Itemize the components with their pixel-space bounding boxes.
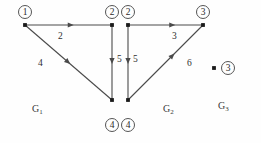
vertex-label-G1-v1: 1 xyxy=(18,5,32,19)
graph-caption-index-G1: 1 xyxy=(39,108,43,116)
edge-weight-G2-v2-v3: 3 xyxy=(172,31,177,41)
vertex-label-G3-v3: 3 xyxy=(221,61,235,75)
vertex-label-G2-v2: 2 xyxy=(121,5,135,19)
graph-figure: 124245G1234356G23G3 xyxy=(0,0,261,143)
vertex-label-G2-v4: 4 xyxy=(121,118,135,132)
vertex-dot-G2-v2[interactable] xyxy=(126,23,130,27)
vertex-dot-G3-v3[interactable] xyxy=(212,66,216,70)
arrowhead-G1-v2-v4 xyxy=(109,58,114,64)
edge-weight-G2-v4-v3: 6 xyxy=(187,58,192,68)
graph-caption-G1: G1 xyxy=(32,103,43,116)
vertex-label-G1-v4: 4 xyxy=(105,118,119,132)
vertex-dot-G2-v4[interactable] xyxy=(126,98,130,102)
graph-caption-G2: G2 xyxy=(163,103,174,116)
graph-caption-index-G2: 2 xyxy=(170,108,174,116)
vertex-dot-G1-v2[interactable] xyxy=(110,23,114,27)
graph-caption-index-G3: 3 xyxy=(225,105,229,113)
arrowhead-G1-v1-v2 xyxy=(68,22,74,27)
vertex-dot-G1-v4[interactable] xyxy=(110,98,114,102)
arrowhead-G2-v2-v4 xyxy=(125,58,130,64)
edge-weight-G1-v1-v2: 2 xyxy=(58,31,63,41)
vertex-dot-G1-v1[interactable] xyxy=(23,23,27,27)
edge-weight-G1-v1-v4: 4 xyxy=(38,58,43,68)
vertex-label-G1-v2: 2 xyxy=(105,5,119,19)
graph-caption-G3: G3 xyxy=(218,100,229,113)
arrowhead-G2-v2-v3 xyxy=(169,22,175,27)
vertex-dot-G2-v3[interactable] xyxy=(201,23,205,27)
edge-weight-G2-v2-v4: 5 xyxy=(133,54,138,64)
vertex-label-G2-v3: 3 xyxy=(196,5,210,19)
edge-weight-G1-v2-v4: 5 xyxy=(117,54,122,64)
